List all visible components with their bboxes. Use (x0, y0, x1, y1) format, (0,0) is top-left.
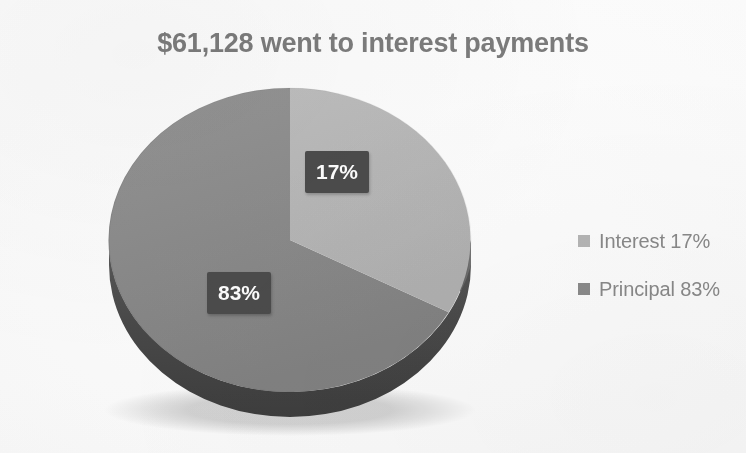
legend-item-principal[interactable]: Principal 83% (578, 274, 720, 304)
legend-swatch-icon-principal (578, 283, 590, 295)
data-label-interest: 17% (305, 151, 369, 193)
chart-canvas: $61,128 went to interest payments (0, 0, 746, 453)
legend-swatch-icon-interest (578, 235, 590, 247)
legend-item-interest[interactable]: Interest 17% (578, 226, 720, 256)
chart-legend: Interest 17% Principal 83% (578, 226, 720, 322)
pie-chart (104, 98, 474, 428)
data-label-principal: 83% (207, 272, 271, 314)
pie-chart-svg (104, 98, 474, 428)
chart-title: $61,128 went to interest payments (0, 28, 746, 59)
legend-label-interest: Interest 17% (599, 230, 710, 253)
legend-label-principal: Principal 83% (599, 278, 720, 301)
